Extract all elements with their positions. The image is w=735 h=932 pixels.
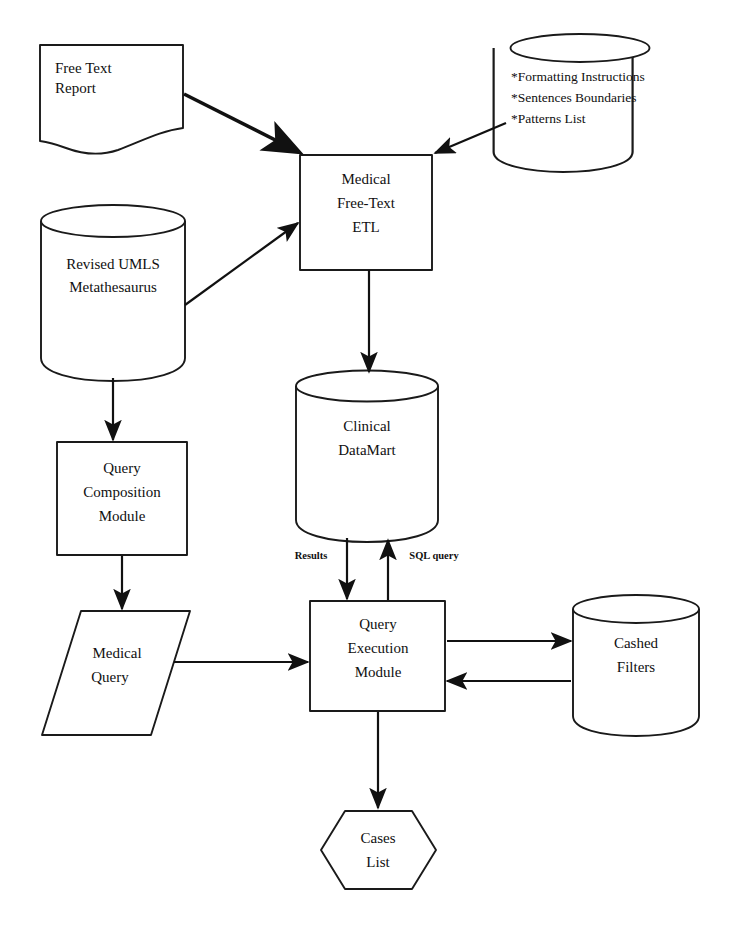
node-rules-store[interactable]: *Formatting Instructions *Sentences Boun…: [494, 34, 650, 172]
query-composition-label-line2: Composition: [83, 484, 161, 500]
rules-store-top: [511, 34, 650, 62]
umls-label-line1: Revised UMLS: [66, 256, 160, 272]
node-clinical-datamart[interactable]: Clinical DataMart: [296, 371, 438, 543]
query-execution-label-line2: Execution: [348, 640, 409, 656]
query-execution-label-line3: Module: [355, 664, 402, 680]
medical-etl-label-line1: Medical: [341, 171, 390, 187]
architecture-diagram: Free Text Report *Formatting Instruction…: [0, 0, 735, 932]
cases-list-shape: [321, 811, 436, 889]
query-composition-label-line3: Module: [99, 508, 146, 524]
clinical-datamart-body: [296, 386, 438, 542]
node-free-text-report[interactable]: Free Text Report: [40, 45, 183, 154]
medical-query-label-line2: Query: [91, 669, 129, 685]
node-query-execution[interactable]: Query Execution Module: [310, 601, 445, 711]
node-umls[interactable]: Revised UMLS Metathesaurus: [41, 205, 185, 381]
query-composition-label-line1: Query: [103, 460, 141, 476]
clinical-datamart-top: [296, 371, 438, 402]
cashed-filters-label-line1: Cashed: [614, 635, 659, 651]
node-medical-query[interactable]: Medical Query: [42, 611, 190, 735]
edge-report-to-etl: [184, 94, 299, 152]
edge-label-results: Results: [295, 550, 328, 561]
rules-store-label-line2: *Sentences Boundaries: [511, 90, 637, 105]
cases-list-label-line2: List: [366, 854, 390, 870]
node-cashed-filters[interactable]: Cashed Filters: [573, 595, 699, 736]
clinical-datamart-label-line1: Clinical: [343, 418, 391, 434]
medical-query-label-line1: Medical: [92, 645, 141, 661]
umls-body: [41, 221, 185, 381]
query-execution-label-line1: Query: [359, 616, 397, 632]
rules-store-body: [494, 48, 633, 172]
umls-top: [41, 205, 185, 237]
rules-store-label-line3: *Patterns List: [511, 111, 586, 126]
cashed-filters-top: [573, 595, 699, 623]
free-text-report-label-line2: Report: [55, 80, 97, 96]
free-text-report-label-line1: Free Text: [55, 60, 112, 76]
cashed-filters-label-line2: Filters: [617, 659, 655, 675]
edge-umls-to-etl: [185, 223, 298, 305]
diagram-canvas: Free Text Report *Formatting Instruction…: [0, 0, 735, 932]
medical-etl-label-line2: Free-Text: [337, 195, 396, 211]
node-medical-etl[interactable]: Medical Free-Text ETL: [300, 155, 432, 270]
medical-etl-label-line3: ETL: [352, 219, 380, 235]
umls-label-line2: Metathesaurus: [69, 279, 157, 295]
node-cases-list[interactable]: Cases List: [321, 811, 436, 889]
node-query-composition[interactable]: Query Composition Module: [57, 442, 187, 555]
cases-list-label-line1: Cases: [361, 830, 396, 846]
edge-label-sql-query: SQL query: [409, 550, 459, 561]
clinical-datamart-label-line2: DataMart: [338, 442, 396, 458]
rules-store-label-line1: *Formatting Instructions: [511, 69, 645, 84]
